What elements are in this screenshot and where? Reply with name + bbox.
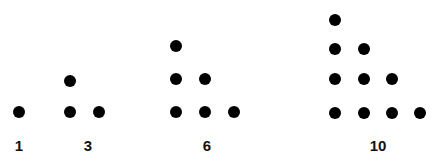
- dot: [93, 106, 105, 118]
- dot: [386, 107, 398, 119]
- dot: [414, 107, 426, 119]
- dot: [329, 43, 341, 55]
- group-label: 10: [370, 137, 387, 154]
- dot: [170, 73, 182, 85]
- dot: [13, 106, 25, 118]
- group-label: 6: [203, 137, 211, 154]
- dot: [358, 43, 370, 55]
- dot: [170, 40, 182, 52]
- dot: [64, 75, 76, 87]
- dot: [358, 107, 370, 119]
- group-label: 3: [84, 137, 92, 154]
- group-label: 1: [15, 137, 23, 154]
- dot: [170, 106, 182, 118]
- dot: [199, 73, 211, 85]
- dot: [64, 106, 76, 118]
- dot: [199, 106, 211, 118]
- dot: [358, 73, 370, 85]
- dot: [329, 14, 341, 26]
- dot: [228, 106, 240, 118]
- dot: [386, 73, 398, 85]
- dot: [329, 73, 341, 85]
- dot: [329, 107, 341, 119]
- triangular-numbers-diagram: 1 3 6 10: [0, 0, 432, 165]
